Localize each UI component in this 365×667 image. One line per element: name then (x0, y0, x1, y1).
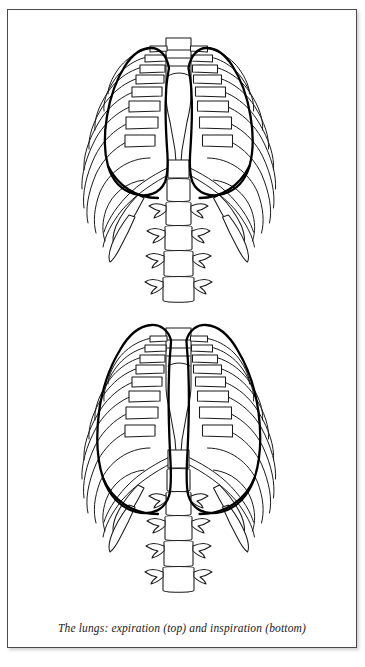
lumbar-spine-bottom (145, 450, 212, 592)
page-canvas: The lungs: expiration (top) and inspirat… (0, 0, 365, 667)
lumbar-spine-top (145, 160, 212, 302)
panel-expiration (82, 38, 276, 302)
figure-frame: The lungs: expiration (top) and inspirat… (7, 9, 357, 648)
sternum-top (166, 38, 191, 162)
figure-caption: The lungs: expiration (top) and inspirat… (8, 622, 356, 634)
ribcage-lungs-svg (8, 10, 356, 610)
figure-illustration (8, 10, 356, 610)
panel-inspiration (82, 325, 276, 592)
